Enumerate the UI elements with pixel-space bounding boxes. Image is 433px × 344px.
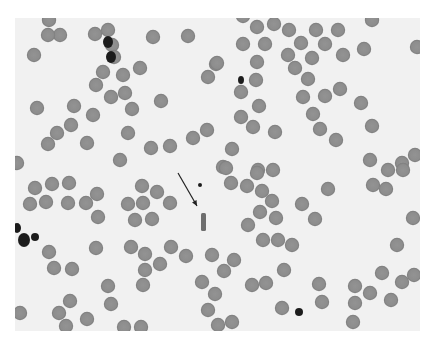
red-blood-cell (96, 65, 110, 79)
red-blood-cell (346, 315, 360, 329)
red-blood-cell (281, 48, 295, 62)
red-blood-cell (154, 94, 168, 108)
red-blood-cell (357, 42, 371, 56)
red-blood-cell (135, 179, 149, 193)
blood-smear-micrograph (15, 18, 420, 331)
red-blood-cell (245, 278, 259, 292)
red-blood-cell (150, 185, 164, 199)
red-blood-cell (250, 55, 264, 69)
red-blood-cell (265, 194, 279, 208)
red-blood-cell (312, 277, 326, 291)
red-blood-cell (219, 161, 233, 175)
red-blood-cell (384, 293, 398, 307)
red-blood-cell (28, 181, 42, 195)
red-blood-cell (86, 108, 100, 122)
red-blood-cell (309, 23, 323, 37)
red-blood-cell (80, 312, 94, 326)
red-blood-cell (47, 261, 61, 275)
red-blood-cell (89, 241, 103, 255)
dark-particle (18, 233, 30, 247)
red-blood-cell (91, 210, 105, 224)
red-blood-cell (354, 96, 368, 110)
red-blood-cell (124, 240, 138, 254)
red-blood-cell (395, 275, 409, 289)
red-blood-cell (138, 263, 152, 277)
pointer-arrow (178, 173, 197, 206)
red-blood-cell (45, 177, 59, 191)
red-blood-cell (258, 37, 272, 51)
red-blood-cell (329, 133, 343, 147)
red-blood-cell (179, 249, 193, 263)
red-blood-cell (27, 48, 41, 62)
red-blood-cell (138, 247, 152, 261)
red-blood-cell (88, 27, 102, 41)
red-blood-cell (348, 279, 362, 293)
red-blood-cell (259, 276, 273, 290)
red-blood-cell (236, 37, 250, 51)
red-blood-cell (318, 89, 332, 103)
red-blood-cell (246, 120, 260, 134)
red-blood-cell (406, 211, 420, 225)
red-blood-cell (365, 119, 379, 133)
red-blood-cell (241, 218, 255, 232)
red-blood-cell (63, 294, 77, 308)
red-blood-cell (90, 187, 104, 201)
red-blood-cell (282, 23, 296, 37)
red-blood-cell (366, 178, 380, 192)
red-blood-cell (62, 176, 76, 190)
red-blood-cell (234, 85, 248, 99)
red-blood-cell (381, 163, 395, 177)
red-blood-cell (363, 286, 377, 300)
red-blood-cell (30, 101, 44, 115)
red-blood-cell (269, 211, 283, 225)
red-blood-cell (41, 28, 55, 42)
red-blood-cell (118, 86, 132, 100)
red-blood-cell (153, 257, 167, 271)
red-blood-cell (101, 23, 115, 37)
dark-particle (103, 36, 113, 48)
red-blood-cell (121, 126, 135, 140)
red-blood-cell (104, 297, 118, 311)
red-blood-cell (52, 306, 66, 320)
red-blood-cell (181, 29, 195, 43)
red-blood-cell (390, 238, 404, 252)
red-blood-cell (249, 73, 263, 87)
red-blood-cell (42, 18, 56, 27)
red-blood-cell (64, 118, 78, 132)
red-blood-cells (15, 18, 420, 331)
red-blood-cell (250, 20, 264, 34)
red-blood-cell (67, 99, 81, 113)
red-blood-cell (42, 245, 56, 259)
red-blood-cell (205, 248, 219, 262)
red-blood-cell (117, 320, 131, 331)
micrograph-frame (15, 18, 420, 331)
red-blood-cell (252, 99, 266, 113)
red-blood-cell (225, 142, 239, 156)
red-blood-cell (266, 163, 280, 177)
red-blood-cell (348, 296, 362, 310)
red-blood-cell (23, 197, 37, 211)
red-blood-cell (61, 196, 75, 210)
red-blood-cell (308, 212, 322, 226)
red-blood-cell (271, 233, 285, 247)
red-blood-cell (186, 131, 200, 145)
red-blood-cell (236, 18, 250, 23)
red-blood-cell (331, 23, 345, 37)
red-blood-cell (333, 82, 347, 96)
dark-particle (106, 51, 116, 63)
red-blood-cell (136, 196, 150, 210)
red-blood-cell (145, 212, 159, 226)
red-blood-cell (101, 279, 115, 293)
red-blood-cell (295, 197, 309, 211)
red-blood-cell (253, 205, 267, 219)
red-blood-cell (59, 319, 73, 331)
red-blood-cell (164, 240, 178, 254)
red-blood-cell (163, 139, 177, 153)
red-blood-cell (296, 90, 310, 104)
dark-particle (238, 76, 244, 84)
red-blood-cell (217, 264, 231, 278)
red-blood-cell (121, 197, 135, 211)
red-blood-cell (133, 61, 147, 75)
red-blood-cell (89, 78, 103, 92)
red-blood-cell (39, 195, 53, 209)
